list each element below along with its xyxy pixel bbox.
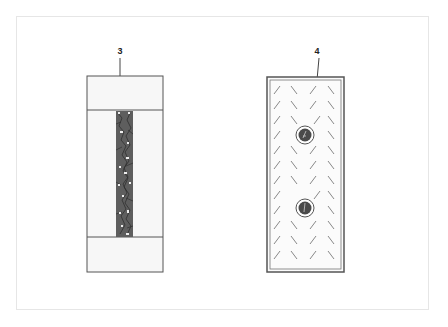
textured-strip [116, 111, 133, 237]
panel-4 [267, 58, 344, 272]
diagram-canvas [0, 0, 448, 327]
fastener-circle-top [296, 126, 314, 144]
panel-3 [87, 58, 163, 272]
fastener-circle-bottom [296, 199, 314, 217]
